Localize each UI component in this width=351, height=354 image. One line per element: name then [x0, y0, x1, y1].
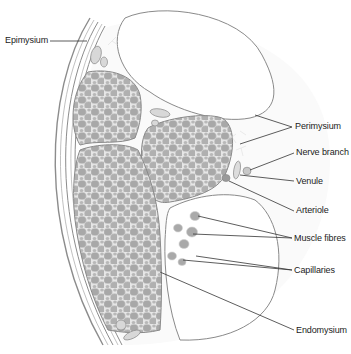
arteriole-shape [222, 175, 230, 182]
label-endomysium: Endomysium [296, 325, 347, 335]
nerve-branch-shape [243, 167, 251, 175]
label-arteriole: Arteriole [296, 205, 329, 215]
label-epimysium: Epimysium [5, 35, 48, 45]
fascicle-upper-left [73, 71, 141, 145]
label-perimysium: Perimysium [295, 121, 341, 131]
label-muscle-fibres: Muscle fibres [294, 233, 346, 243]
label-nerve-branch: Nerve branch [296, 147, 349, 157]
label-venule: Venule [296, 176, 323, 186]
label-capillaries: Capillaries [294, 265, 335, 275]
